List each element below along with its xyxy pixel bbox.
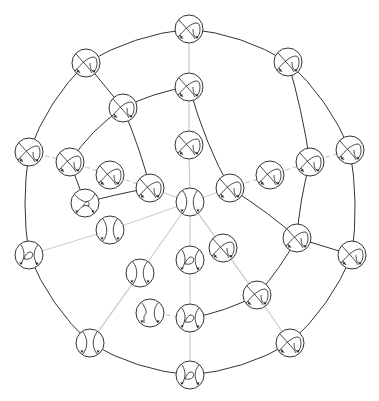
graph-node-n29: [176, 361, 204, 389]
node-circle: [336, 136, 364, 164]
node-circle: [274, 48, 302, 76]
edge-n1-n2: [86, 29, 189, 63]
node-circle: [243, 281, 271, 309]
node-circle: [96, 161, 124, 189]
graph-node-n23: [126, 259, 154, 287]
graph-node-n10: [136, 174, 164, 202]
graph-node-n6: [175, 131, 203, 159]
graph-node-n26: [176, 304, 204, 332]
edge-n3-n1: [189, 29, 288, 62]
knot-graph-diagram: [0, 0, 379, 401]
graph-node-n9: [96, 161, 124, 189]
node-circle: [96, 216, 124, 244]
graph-node-n5: [109, 94, 137, 122]
node-circle: [256, 161, 284, 189]
graph-node-n21: [283, 224, 311, 252]
node-circle: [283, 224, 311, 252]
graph-node-n14: [336, 136, 364, 164]
graph-node-n15: [71, 189, 99, 217]
edge-n29-n27: [190, 343, 290, 375]
node-circle: [56, 148, 84, 176]
graph-node-n1: [175, 15, 203, 43]
node-circle: [296, 148, 324, 176]
graph-node-n3: [274, 48, 302, 76]
node-circle: [109, 94, 137, 122]
node-circle: [15, 138, 43, 166]
graph-node-n11: [216, 174, 244, 202]
node-circle: [175, 131, 203, 159]
node-circle: [209, 234, 237, 262]
graph-node-n13: [296, 148, 324, 176]
graph-node-n19: [209, 234, 237, 262]
graph-node-n7: [15, 138, 43, 166]
edge-n3-n13: [288, 62, 310, 162]
node-circle: [276, 329, 304, 357]
graph-node-n17: [96, 216, 124, 244]
node-circle: [72, 49, 100, 77]
node-circle: [216, 174, 244, 202]
node-circle: [176, 246, 204, 274]
edge-n27-n22: [290, 255, 352, 343]
graph-node-n4: [175, 73, 203, 101]
node-circle: [136, 174, 164, 202]
graph-node-n16: [176, 188, 204, 216]
edge-n14-n3: [288, 62, 350, 150]
edge-n28-n29: [90, 343, 190, 375]
edge-n2-n7: [29, 63, 86, 152]
graph-node-n22: [338, 241, 366, 269]
node-circle: [176, 361, 204, 389]
node-circle: [176, 304, 204, 332]
node-circle: [338, 241, 366, 269]
node-circle: [175, 15, 203, 43]
edge-n7-n18: [25, 152, 29, 255]
node-circle: [76, 329, 104, 357]
graph-node-n12: [256, 161, 284, 189]
node-circle: [136, 299, 164, 327]
edge-n18-n28: [29, 255, 90, 343]
node-circle: [176, 188, 204, 216]
node-circle: [175, 73, 203, 101]
node-circle: [126, 259, 154, 287]
graph-node-n2: [72, 49, 100, 77]
graph-node-n20: [176, 246, 204, 274]
graph-node-n18: [15, 241, 43, 269]
node-circle: [15, 241, 43, 269]
graph-node-n8: [56, 148, 84, 176]
graph-node-n25: [136, 299, 164, 327]
graph-node-n27: [276, 329, 304, 357]
graph-node-n24: [243, 281, 271, 309]
graph-node-n28: [76, 329, 104, 357]
edge-n22-n14: [350, 150, 355, 255]
